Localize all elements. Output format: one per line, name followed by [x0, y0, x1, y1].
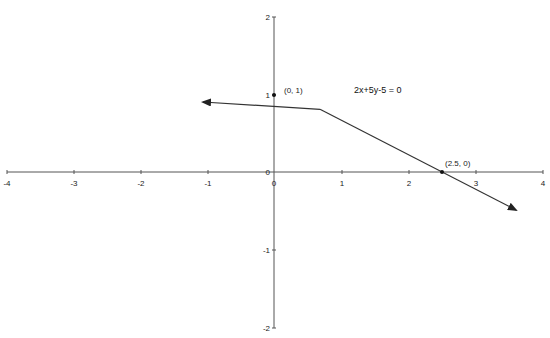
y-tick-label: 2 [266, 13, 271, 22]
point-x-intercept [440, 170, 444, 174]
x-tick-label: 4 [541, 179, 546, 188]
equation-line-right-segment [320, 109, 516, 210]
equation-label: 2x+5y-5 = 0 [354, 85, 402, 95]
y-tick-label: 1 [266, 91, 271, 100]
y-tick-label: 0 [266, 168, 271, 177]
x-tick-label: 3 [474, 179, 479, 188]
y-tick-label: -1 [263, 246, 271, 255]
point-label-y-intercept: (0, 1) [284, 86, 303, 95]
line-graph: -4 -3 -2 -1 0 1 2 3 4 2 1 0 -1 -2 (0, 1)… [0, 0, 550, 338]
y-tick-label: -2 [263, 324, 271, 333]
point-label-x-intercept: (2.5, 0) [445, 159, 471, 168]
equation-line-left-segment [203, 102, 320, 109]
x-tick-label: -2 [137, 179, 145, 188]
y-tick-labels: 2 1 0 -1 -2 [263, 13, 271, 333]
x-tick-label: 2 [407, 179, 412, 188]
x-tick-label: 0 [272, 179, 277, 188]
x-tick-label: -4 [3, 179, 11, 188]
x-tick-label: 1 [340, 179, 345, 188]
x-tick-label: -1 [204, 179, 212, 188]
point-y-intercept [272, 93, 276, 97]
equation-line [204, 95, 274, 102]
x-tick-label: -3 [70, 179, 78, 188]
